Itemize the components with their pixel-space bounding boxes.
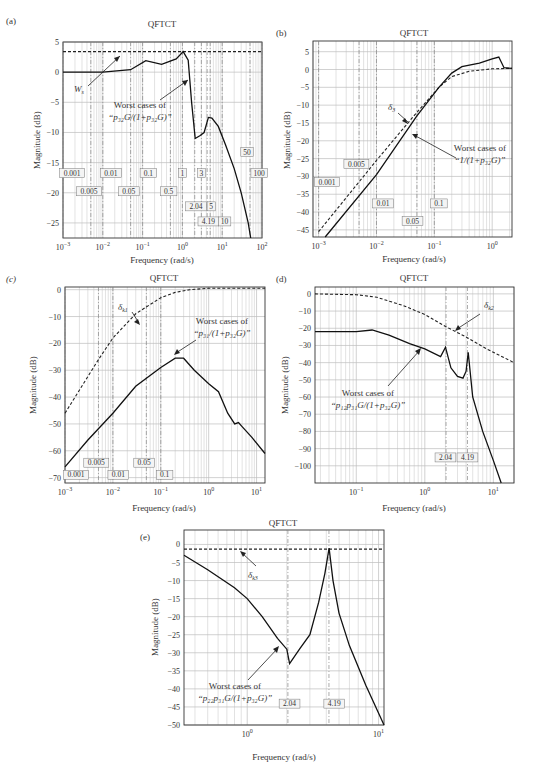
panel-letter: (d) (276, 274, 287, 284)
y-tick-label: −40 (167, 685, 180, 694)
arrow (176, 340, 196, 353)
y-ticks: 50−5−10−15−20−25 (46, 38, 59, 228)
panel-letter: (b) (276, 28, 287, 38)
chart-title: QFTCT (148, 19, 177, 29)
series (63, 52, 262, 238)
annotation-line1: Worst cases of (342, 388, 394, 398)
panel-letter: (e) (140, 532, 150, 542)
y-tick-label: −15 (46, 159, 59, 168)
y-tick-label: −90 (298, 445, 311, 454)
panel-b: (b) QFTCT 50−5−10−15−20−25−30−35−40−45 1… (268, 0, 537, 282)
frequency-marker-label: 0.001 (64, 169, 81, 178)
x-tick-label: 102 (257, 241, 268, 252)
panel-e: (e) QFTCT 0−5−10−15−20−25−30−35−40−45−50… (130, 510, 420, 772)
annotation-line1: Worst cases of (454, 143, 506, 153)
frequency-marker-label: 0.05 (138, 458, 151, 467)
arrow-head-icon (182, 80, 188, 86)
frequency-marker-label: 0.005 (88, 458, 105, 467)
y-tick-label: −5 (50, 98, 59, 107)
frequency-marker-label: 0.05 (122, 187, 135, 196)
y-tick-label: −20 (46, 189, 59, 198)
frequency-marker-label: 0.1 (434, 199, 444, 208)
frequency-marker-label: 1 (181, 169, 185, 178)
y-tick-label: −30 (296, 172, 309, 181)
frequency-marker-label: 0.5 (164, 187, 174, 196)
x-tick-label: 101 (217, 241, 228, 252)
y-axis-label: Magnitude (dB) (150, 598, 160, 656)
y-tick-label: −30 (167, 649, 180, 658)
plot-area (63, 42, 262, 238)
panel-a: (a) QFTCT 50−5−10−15−20−25 10−310−210−11… (0, 0, 268, 282)
x-tick-label: 10−1 (427, 240, 441, 251)
y-tick-label: −70 (48, 474, 61, 483)
y-tick-label: −70 (298, 410, 311, 419)
chart-b-svg: (b) QFTCT 50−5−10−15−20−25−30−35−40−45 1… (268, 0, 537, 282)
y-axis-label: Magnitude (dB) (282, 111, 292, 169)
x-tick-label: 100 (487, 240, 498, 251)
y-tick-label: −35 (167, 667, 180, 676)
frequency-marker-label: 2.04 (439, 453, 452, 462)
frequency-marker-label: 100 (254, 169, 266, 178)
chart-title: QFTCT (400, 273, 429, 283)
frequency-marker-label: 0.1 (144, 169, 154, 178)
y-tick-label: −20 (167, 613, 180, 622)
chart-d-svg: (d) QFTCT 0−10−20−30−40−50−60−70−80−90−1… (268, 268, 537, 518)
y-tick-label: 0 (305, 66, 309, 75)
frequency-marker-label: 5 (209, 202, 213, 211)
chart-title: QFTCT (400, 28, 429, 38)
chart-e-svg: (e) QFTCT 0−5−10−15−20−25−30−35−40−45−50… (130, 510, 420, 772)
y-tick-label: −60 (48, 447, 61, 456)
y-tick-label: −45 (167, 703, 180, 712)
y-tick-label: −5 (171, 559, 180, 568)
annotation-line1: Worst cases of (209, 681, 261, 691)
y-ticks: 0−10−20−30−40−50−60−70−80−90−100 (294, 290, 311, 471)
x-ticks: 10−310−210−1100101102 (56, 241, 268, 252)
x-tick-label: 101 (488, 486, 499, 497)
y-tick-label: −10 (167, 577, 180, 586)
frequency-marker-label: 4.19 (328, 699, 341, 708)
x-tick-label: 10−2 (96, 241, 110, 252)
frequency-marker-label: 4.19 (202, 217, 215, 226)
y-ticks: 0−5−10−15−20−25−30−35−40−45−50 (167, 540, 180, 730)
y-axis-label: Magnitude (dB) (32, 111, 42, 169)
y-tick-label: −30 (298, 341, 311, 350)
x-tick-label: 10−3 (58, 486, 72, 497)
frequency-marker-label: 10 (221, 217, 229, 226)
y-ticks: 0−10−20−30−40−50−60−70 (48, 286, 61, 483)
y-tick-label: −10 (296, 101, 309, 110)
x-tick-label: 101 (251, 486, 262, 497)
frequency-marker-label: 0.01 (112, 470, 125, 479)
panel-c: (c) QFTCT 0−10−20−30−40−50−60−70 10−310−… (0, 268, 268, 518)
arrow (414, 135, 456, 158)
frequency-marker-label: 0.001 (319, 178, 336, 187)
x-ticks: 10−1100101 (349, 486, 499, 497)
y-ticks: 50−5−10−15−20−25−30−35−40−45 (296, 48, 309, 235)
grid (315, 287, 514, 483)
y-tick-label: −15 (296, 119, 309, 128)
frequency-marker-label: 3 (200, 169, 204, 178)
chart-a-svg: (a) QFTCT 50−5−10−15−20−25 10−310−210−11… (0, 0, 268, 282)
chart-title: QFTCT (150, 273, 179, 283)
frequency-marker-label: 0.001 (68, 470, 85, 479)
frequency-marker-label: 0.01 (104, 169, 117, 178)
frequency-marker-label: 0.05 (406, 217, 419, 226)
x-tick-label: 10−2 (369, 240, 383, 251)
y-tick-label: −10 (48, 313, 61, 322)
frequency-marker-label: 0.005 (81, 187, 98, 196)
y-axis-label: Magnitude (dB) (280, 356, 290, 414)
y-tick-label: 0 (176, 540, 180, 549)
x-axis-label: Frequency (rad/s) (252, 752, 316, 762)
x-tick-label: 100 (419, 486, 430, 497)
annotation-line1: Worst cases of (196, 316, 248, 326)
arrow-head-icon (134, 319, 140, 325)
y-tick-label: −30 (48, 366, 61, 375)
annotation-line2: “p₃₂G/(1+p₃₂G)” (108, 112, 172, 122)
x-tick-label: 10−1 (154, 486, 168, 497)
annotation-line2: “p₃₁/(1+p₃₂G)” (193, 328, 250, 338)
y-tick-label: −40 (296, 208, 309, 217)
y-tick-label: −35 (296, 190, 309, 199)
annotation-line2: “1/(1+p₃₂G)” (455, 155, 506, 165)
panel-letter: (a) (6, 16, 16, 26)
delta-k2-label: δk2 (484, 300, 494, 311)
y-tick-label: −50 (48, 420, 61, 429)
